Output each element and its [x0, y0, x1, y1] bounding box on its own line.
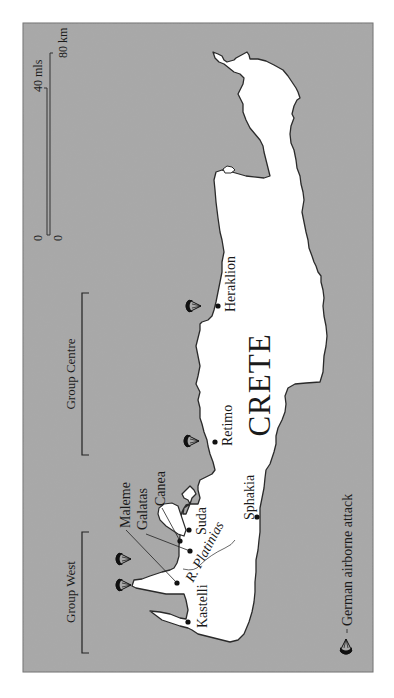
scale-zero-miles: 0 [31, 235, 45, 241]
town-dot-retimo [212, 439, 217, 444]
legend-label: German airborne attack [340, 494, 355, 626]
place-label-sphakia: Sphakia [242, 474, 257, 520]
town-dot-kastelli [185, 619, 190, 624]
scale-zero-km: 0 [51, 235, 65, 241]
place-label-heraklion: Heraklion [223, 256, 238, 312]
town-dot-suda [186, 527, 191, 532]
scale-miles-label: 40 mls [31, 59, 45, 92]
scale-km-label: 80 km [56, 27, 70, 58]
group-west-label: Group West [63, 561, 78, 623]
place-label-galatas: Galatas [135, 488, 150, 530]
place-label-maleme: Maleme [118, 482, 133, 528]
place-label-canea: Canea [153, 470, 168, 506]
group-centre-label: Group Centre [63, 338, 78, 409]
place-label-retimo: Retimo [220, 405, 235, 446]
crete-map: 0 0 40 mls 80 km Group Centre Group West… [0, 0, 394, 698]
island-title: CRETE [242, 333, 277, 436]
town-dot-heraklion [215, 303, 220, 308]
place-label-kastelli: Kastelli [195, 584, 210, 628]
